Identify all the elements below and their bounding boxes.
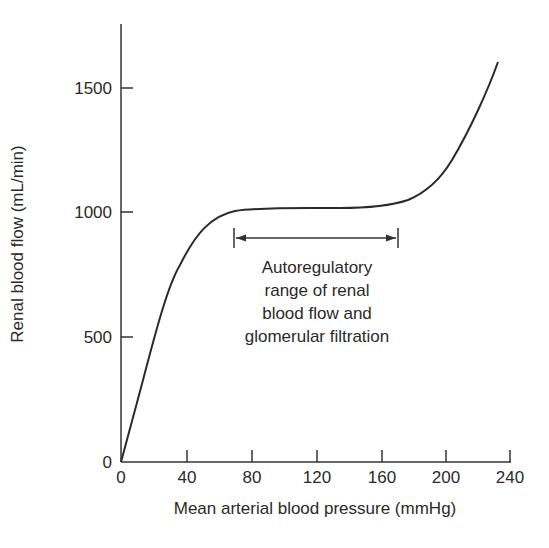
annotation-line-3: blood flow and bbox=[262, 304, 372, 323]
y-tick-label: 1000 bbox=[74, 203, 112, 222]
y-axis-title: Renal blood flow (mL/min) bbox=[8, 145, 27, 342]
annotation-line-4: glomerular filtration bbox=[245, 327, 390, 346]
y-tick-label: 0 bbox=[103, 453, 112, 472]
y-tick-label: 500 bbox=[84, 328, 112, 347]
x-tick-label: 80 bbox=[243, 468, 262, 487]
chart: 0 500 1000 1500 0 40 80 120 160 200 240 … bbox=[0, 0, 549, 548]
y-tick-label: 1500 bbox=[74, 79, 112, 98]
x-tick-label: 40 bbox=[178, 468, 197, 487]
x-ticks bbox=[187, 450, 510, 462]
annotation-line-1: Autoregulatory bbox=[262, 258, 373, 277]
x-tick-label: 160 bbox=[368, 468, 396, 487]
autoregulatory-range-arrow bbox=[234, 228, 398, 248]
x-axis-title: Mean arterial blood pressure (mmHg) bbox=[174, 499, 457, 518]
x-tick-label: 120 bbox=[303, 468, 331, 487]
x-tick-label: 0 bbox=[116, 468, 125, 487]
x-tick-label: 200 bbox=[432, 468, 460, 487]
x-tick-label: 240 bbox=[496, 468, 524, 487]
annotation-line-2: range of renal bbox=[265, 281, 370, 300]
y-ticks bbox=[121, 88, 133, 337]
